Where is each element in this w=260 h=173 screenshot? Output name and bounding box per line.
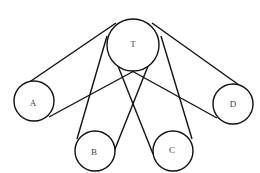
pulley-B: B (75, 131, 115, 171)
pulley-B-label: B (91, 147, 97, 157)
pulley-A: A (14, 81, 54, 121)
belt-T-A-upper (28, 23, 116, 83)
belt-drive-diagram: T A B C D (0, 0, 260, 173)
pulley-D-label: D (230, 99, 237, 109)
belt-T-D-lower (132, 71, 217, 118)
pulley-C: C (153, 131, 193, 171)
belt-T-C-right (161, 36, 192, 139)
pulley-A-label: A (30, 98, 37, 108)
pulley-D: D (213, 84, 253, 124)
pulley-T-label: T (130, 39, 136, 49)
pulley-T: T (107, 19, 159, 71)
belt-T-A-lower (49, 71, 134, 117)
belt-T-D-upper (152, 23, 239, 85)
pulley-C-label: C (169, 145, 175, 155)
